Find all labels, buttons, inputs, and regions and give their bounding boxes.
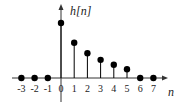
- tick-labels: -3-2-101234567: [17, 83, 156, 94]
- stem-marker: [137, 75, 143, 81]
- stem-marker: [45, 75, 51, 81]
- stem-marker: [150, 75, 156, 81]
- x-axis-arrow-icon: [162, 76, 168, 81]
- x-tick-label: 3: [98, 83, 103, 94]
- x-tick-label: -2: [30, 83, 38, 94]
- stem-marker: [84, 50, 90, 56]
- x-tick-label: 0: [59, 83, 64, 94]
- stems: [18, 20, 156, 81]
- x-tick-label: 6: [138, 83, 143, 94]
- y-axis-label: h[n]: [70, 4, 92, 18]
- stem-marker: [97, 57, 103, 63]
- stem-marker: [31, 75, 37, 81]
- x-axis-label: n: [168, 85, 174, 99]
- stem-marker: [124, 66, 130, 72]
- stem-marker: [71, 40, 77, 46]
- x-tick-label: 1: [72, 83, 77, 94]
- stem-marker: [111, 62, 117, 68]
- x-tick-label: 5: [125, 83, 130, 94]
- y-axis-arrow-icon: [59, 4, 64, 10]
- x-tick-label: 7: [151, 83, 156, 94]
- x-tick-label: -1: [44, 83, 52, 94]
- stem-marker: [58, 20, 64, 26]
- stem-marker: [18, 75, 24, 81]
- x-tick-label: 4: [111, 83, 116, 94]
- stem-plot: -3-2-101234567 h[n] n: [0, 0, 182, 105]
- x-tick-label: -3: [17, 83, 25, 94]
- x-tick-label: 2: [85, 83, 90, 94]
